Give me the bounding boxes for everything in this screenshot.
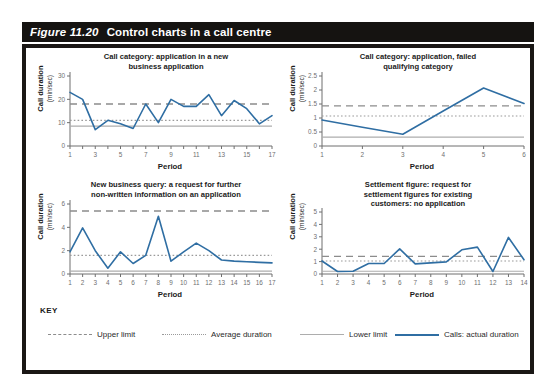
chart-plot-0: 01020301357911131517 bbox=[26, 50, 278, 162]
chart-grid: Call category: application in a new busi… bbox=[26, 50, 530, 302]
average-duration-line-icon bbox=[162, 329, 206, 339]
svg-text:0.5: 0.5 bbox=[308, 128, 317, 135]
chart-plot-3: 0123451234567891011121314 bbox=[278, 178, 530, 290]
svg-text:20: 20 bbox=[58, 96, 66, 103]
chart-panel-0: Call category: application in a new busi… bbox=[26, 50, 278, 176]
key-item-upper-limit: Upper limit bbox=[48, 326, 135, 342]
svg-text:16: 16 bbox=[256, 279, 264, 286]
chart-plot-1: 00.511.522.5123456 bbox=[278, 50, 530, 162]
chart-xlabel-1: Period bbox=[322, 162, 522, 171]
svg-text:1: 1 bbox=[313, 258, 317, 265]
key-label-upper-limit: Upper limit bbox=[97, 330, 135, 339]
svg-text:6: 6 bbox=[522, 151, 526, 158]
svg-text:5: 5 bbox=[119, 151, 123, 158]
svg-text:2: 2 bbox=[81, 279, 85, 286]
chart-panel-1: Call category: application, failed quali… bbox=[278, 50, 530, 176]
svg-text:2: 2 bbox=[61, 247, 65, 254]
key-item-average-duration: Average duration bbox=[162, 326, 272, 342]
svg-text:10: 10 bbox=[58, 119, 66, 126]
figure-root: Figure 11.20 Control charts in a call ce… bbox=[0, 0, 558, 391]
figure-panel: Call category: application in a new busi… bbox=[22, 44, 534, 374]
key-item-calls-actual-duration: Calls: actual duration bbox=[395, 326, 519, 342]
svg-text:1: 1 bbox=[68, 151, 72, 158]
svg-text:3: 3 bbox=[401, 151, 405, 158]
svg-text:4: 4 bbox=[441, 151, 445, 158]
svg-text:2: 2 bbox=[313, 86, 317, 93]
svg-text:5: 5 bbox=[119, 279, 123, 286]
svg-text:11: 11 bbox=[474, 279, 481, 286]
key-heading: KEY bbox=[40, 306, 520, 315]
svg-text:8: 8 bbox=[429, 279, 433, 286]
svg-text:12: 12 bbox=[489, 279, 497, 286]
svg-text:1: 1 bbox=[68, 279, 72, 286]
svg-text:6: 6 bbox=[61, 200, 65, 207]
svg-text:3: 3 bbox=[93, 151, 97, 158]
svg-text:13: 13 bbox=[218, 279, 226, 286]
svg-text:15: 15 bbox=[243, 151, 251, 158]
svg-text:1: 1 bbox=[320, 151, 324, 158]
svg-text:17: 17 bbox=[268, 151, 276, 158]
svg-text:6: 6 bbox=[131, 279, 135, 286]
chart-key: KEY Upper limit Average duration Lower l… bbox=[40, 306, 520, 352]
svg-text:9: 9 bbox=[445, 279, 449, 286]
svg-text:4: 4 bbox=[61, 224, 65, 231]
chart-panel-2: New business query: a request for furthe… bbox=[26, 178, 278, 304]
chart-panel-3: Settlement figure: request for settlemen… bbox=[278, 178, 530, 304]
upper-limit-line-icon bbox=[48, 329, 92, 339]
svg-text:17: 17 bbox=[268, 279, 276, 286]
key-label-calls-actual-duration: Calls: actual duration bbox=[444, 330, 519, 339]
svg-text:9: 9 bbox=[169, 279, 173, 286]
figure-panel-inner: Call category: application in a new busi… bbox=[26, 48, 530, 370]
svg-text:10: 10 bbox=[458, 279, 466, 286]
chart-xlabel-2: Period bbox=[70, 290, 270, 299]
key-label-lower-limit: Lower limit bbox=[349, 330, 387, 339]
svg-text:5: 5 bbox=[313, 208, 317, 215]
svg-text:30: 30 bbox=[58, 72, 66, 79]
svg-text:3: 3 bbox=[93, 279, 97, 286]
svg-text:15: 15 bbox=[243, 279, 251, 286]
svg-text:5: 5 bbox=[382, 279, 386, 286]
svg-text:0: 0 bbox=[61, 142, 65, 149]
svg-text:3: 3 bbox=[313, 233, 317, 240]
svg-text:13: 13 bbox=[505, 279, 513, 286]
svg-text:11: 11 bbox=[193, 151, 200, 158]
chart-xlabel-3: Period bbox=[322, 290, 522, 299]
svg-text:2: 2 bbox=[336, 279, 340, 286]
svg-text:7: 7 bbox=[144, 279, 148, 286]
svg-text:4: 4 bbox=[313, 221, 317, 228]
chart-plot-2: 02461234567891011121314151617 bbox=[26, 178, 278, 290]
figure-title: Control charts in a call centre bbox=[107, 26, 272, 38]
figure-title-bar: Figure 11.20 Control charts in a call ce… bbox=[22, 22, 534, 42]
svg-text:11: 11 bbox=[193, 279, 200, 286]
svg-text:1: 1 bbox=[313, 114, 317, 121]
svg-text:1.5: 1.5 bbox=[308, 100, 317, 107]
key-label-average-duration: Average duration bbox=[211, 330, 272, 339]
svg-text:3: 3 bbox=[351, 279, 355, 286]
svg-text:9: 9 bbox=[169, 151, 173, 158]
svg-text:13: 13 bbox=[218, 151, 226, 158]
svg-text:6: 6 bbox=[398, 279, 402, 286]
figure-number: Figure 11.20 bbox=[30, 26, 99, 38]
svg-text:0: 0 bbox=[61, 270, 65, 277]
svg-text:2: 2 bbox=[361, 151, 365, 158]
svg-text:5: 5 bbox=[482, 151, 486, 158]
svg-text:2.5: 2.5 bbox=[308, 72, 317, 79]
svg-text:0: 0 bbox=[313, 142, 317, 149]
svg-text:12: 12 bbox=[205, 279, 213, 286]
chart-xlabel-0: Period bbox=[70, 162, 270, 171]
svg-text:14: 14 bbox=[520, 279, 528, 286]
svg-text:7: 7 bbox=[413, 279, 417, 286]
svg-text:1: 1 bbox=[320, 279, 324, 286]
svg-text:4: 4 bbox=[106, 279, 110, 286]
calls-actual-duration-line-icon bbox=[395, 329, 439, 339]
key-items-row: Upper limit Average duration Lower limit… bbox=[40, 326, 520, 342]
key-item-lower-limit: Lower limit bbox=[300, 326, 387, 342]
svg-text:2: 2 bbox=[313, 246, 317, 253]
svg-text:10: 10 bbox=[180, 279, 188, 286]
svg-text:7: 7 bbox=[144, 151, 148, 158]
svg-text:8: 8 bbox=[157, 279, 161, 286]
svg-text:0: 0 bbox=[313, 270, 317, 277]
svg-text:4: 4 bbox=[367, 279, 371, 286]
lower-limit-line-icon bbox=[300, 329, 344, 339]
svg-text:14: 14 bbox=[231, 279, 239, 286]
